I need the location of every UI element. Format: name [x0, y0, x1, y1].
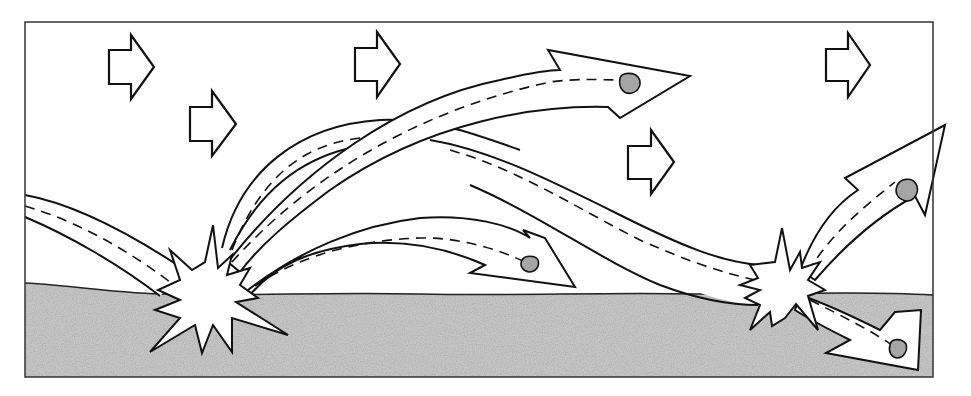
particle-icon: [620, 73, 640, 93]
particle-icon: [896, 179, 917, 201]
particle-icon: [521, 256, 539, 272]
particle-icon: [889, 340, 906, 358]
saltation-diagram: [0, 0, 971, 396]
